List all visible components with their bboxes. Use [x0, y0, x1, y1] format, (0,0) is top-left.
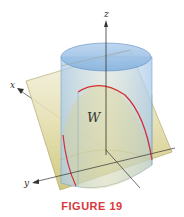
- figure-caption: FIGURE 19: [0, 200, 184, 212]
- x-axis-label: x: [10, 80, 15, 90]
- z-axis-arrow-icon: [104, 20, 108, 27]
- z-axis-label: z: [103, 9, 109, 19]
- cylinder-plane-diagram: z x y W: [0, 0, 184, 195]
- y-axis-label: y: [23, 178, 30, 188]
- region-w-label: W: [87, 110, 102, 125]
- y-axis-arrow-icon: [32, 179, 39, 184]
- x-axis-arrow-icon: [17, 88, 24, 94]
